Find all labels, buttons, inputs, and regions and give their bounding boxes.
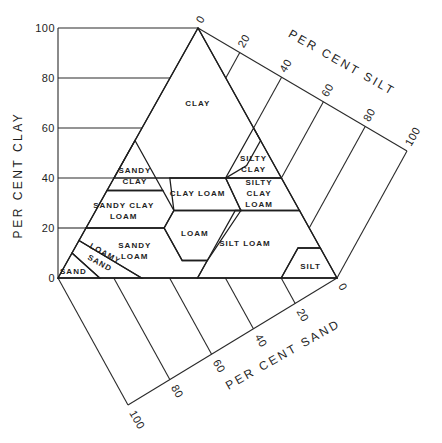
region-label-sand: SAND [60,267,87,276]
clay-tick-label: 80 [42,72,55,84]
silt-gridline [254,77,282,128]
sand-gridline [281,278,295,303]
region-label-sandy-clay-loam: SANDY CLAY [93,201,154,210]
sand-tick-label: 0 [336,281,350,293]
region-label-clay-loam: CLAY LOAM [170,189,226,198]
region-label-silt-loam: SILT LOAM [219,239,271,248]
region-label-silty-clay-loam: CLAY [247,189,272,198]
clay-tick-label: 60 [42,122,55,134]
silt-tick-label: 20 [235,32,252,49]
region-label-silty-clay-loam: LOAM [245,200,273,209]
silt-tick-label: 100 [402,125,422,148]
clay-tick-label: 0 [48,272,55,284]
region-label-silty-clay: CLAY [241,165,266,174]
silt-tick-label: 40 [277,57,294,74]
region-label-silt: SILT [300,262,321,271]
soil-texture-triangle: 020406080100 020406080100 020406080100 C… [0,0,442,443]
region-label-sandy-clay-loam: LOAM [110,212,138,221]
clay-tick-label: 20 [42,222,55,234]
sand-tick-label: 60 [211,357,228,374]
silt-gridline [309,126,365,228]
region-label-sandy-loam: LOAM [121,252,149,261]
sand-axis: 020406080100 [58,278,350,431]
region-labels: CLAYSANDYCLAYSILTYCLAYCLAY LOAMSILTYCLAY… [60,99,321,276]
region-label-silty-clay: SILTY [240,154,267,163]
sand-tick-label: 100 [127,408,147,431]
silt-tick-label: 0 [193,13,207,25]
sand-gridline [225,278,253,329]
silt-gridline [281,102,323,178]
silt-gridline [226,53,240,78]
sand-tick-label: 80 [169,383,186,400]
region-label-loam: LOAM [181,229,209,238]
region-label-silty-clay-loam: SILTY [246,178,273,187]
region-label-clay: CLAY [185,99,210,108]
sand-gridline [170,278,212,354]
region-label-sandy-clay: SANDY [118,166,151,175]
silt-tick-label: 80 [361,106,378,123]
sand-axis-title: PER CENT SAND [223,317,343,393]
region-label-sandy-loam: SANDY [118,241,151,250]
sand-tick-label: 40 [253,332,270,349]
silt-gridline [337,151,407,278]
clay-axis-title: PER CENT CLAY [11,112,25,239]
sand-gridline [58,278,128,405]
clay-tick-label: 100 [35,22,55,34]
sand-tick-label: 20 [294,306,311,323]
clay-tick-label: 40 [42,172,55,184]
sand-gridline [114,278,170,380]
silt-axis-title: PER CENT SILT [286,27,398,99]
silt-tick-label: 60 [319,81,336,98]
region-label-sandy-clay: CLAY [122,177,147,186]
